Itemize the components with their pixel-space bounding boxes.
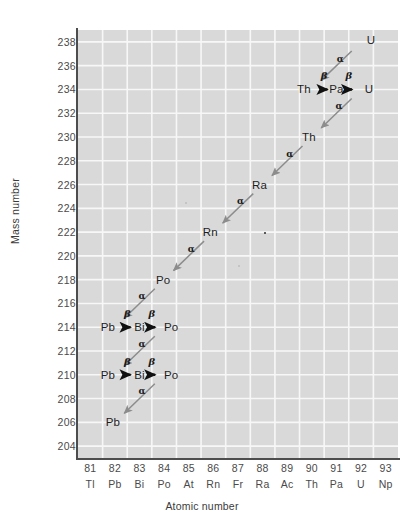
- alpha-decay-label: α: [139, 291, 146, 301]
- nuclide-label: Pb: [101, 321, 115, 333]
- nuclide-label: Bi: [134, 321, 145, 333]
- nuclide-label: Pa: [329, 83, 343, 95]
- beta-decay-label: β: [124, 355, 131, 366]
- beta-decay-label: β: [124, 307, 131, 318]
- nuclide-label: Po: [164, 369, 178, 381]
- x-axis-ticks: 81Tl82Pb83Bi84Po85At86Rn87Fr88Ra89Ac90Th…: [0, 0, 404, 532]
- beta-decay-label: β: [345, 70, 352, 81]
- alpha-decay-label: α: [286, 149, 293, 159]
- nuclide-label: U: [367, 34, 376, 46]
- nuclide-label: Rn: [203, 226, 218, 238]
- nuclide-label: Po: [156, 274, 170, 286]
- nuclide-label: Bi: [134, 369, 145, 381]
- alpha-decay-label: α: [139, 339, 146, 349]
- scan-dot-artifact: [264, 232, 266, 234]
- alpha-decay-label: α: [188, 244, 195, 254]
- y-axis-title: Mass number: [9, 151, 21, 271]
- decay-chain-chart: 2382362342322302282262242222202182162142…: [0, 0, 404, 532]
- alpha-decay-label: α: [139, 386, 146, 396]
- alpha-decay-label: α: [337, 54, 344, 64]
- nuclide-label: Pb: [106, 416, 120, 428]
- nuclide-label: Th: [302, 131, 316, 143]
- beta-decay-label: β: [321, 70, 328, 81]
- x-tick-symbol: Np: [371, 478, 401, 490]
- beta-decay-label: β: [149, 355, 156, 366]
- nuclide-label: Pb: [101, 369, 115, 381]
- alpha-decay-label: α: [237, 196, 244, 206]
- x-tick-number: 93: [371, 462, 401, 474]
- nuclide-label: Th: [297, 83, 311, 95]
- nuclide-label: Po: [164, 321, 178, 333]
- nuclide-label: U: [365, 83, 374, 95]
- x-axis-title: Atomic number: [0, 500, 404, 512]
- beta-decay-label: β: [149, 307, 156, 318]
- alpha-decay-label: α: [335, 101, 342, 111]
- nuclide-label: Ra: [252, 179, 267, 191]
